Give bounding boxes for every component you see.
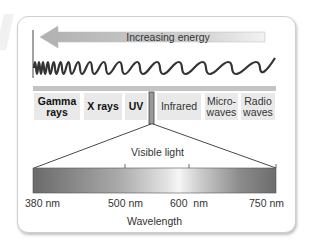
category-gamma: Gamma rays bbox=[34, 93, 80, 120]
wave-icon bbox=[34, 58, 275, 74]
axis-label: Wavelength bbox=[127, 215, 182, 227]
category-label: UV bbox=[129, 101, 144, 112]
spectrum-band-bar bbox=[33, 86, 276, 91]
category-label: Micro- bbox=[207, 96, 236, 107]
arrow-label: Increasing energy bbox=[113, 31, 223, 43]
tick-label-600: 600 nm bbox=[170, 197, 208, 209]
category-uv: UV bbox=[125, 93, 147, 120]
tick-label-750: 750 nm bbox=[249, 197, 284, 209]
category-label: waves bbox=[207, 107, 237, 118]
category-microwaves: Micro- waves bbox=[205, 93, 238, 120]
visible-light-label: Visible light bbox=[131, 146, 184, 158]
visible-spectrum-bar bbox=[33, 168, 276, 193]
category-infrared: Infrared bbox=[157, 93, 201, 120]
category-label: rays bbox=[46, 107, 68, 118]
category-label: Infrared bbox=[161, 101, 197, 112]
category-label: X rays bbox=[87, 101, 119, 112]
category-label: Gamma bbox=[38, 96, 77, 107]
tick-label-500: 500 nm bbox=[108, 197, 143, 209]
category-radio: Radio waves bbox=[241, 93, 275, 120]
visible-slot-marker bbox=[149, 92, 154, 124]
category-label: Radio bbox=[244, 96, 271, 107]
tick-label-380: 380 nm bbox=[25, 197, 60, 209]
category-xrays: X rays bbox=[84, 93, 122, 120]
category-label: waves bbox=[243, 107, 273, 118]
